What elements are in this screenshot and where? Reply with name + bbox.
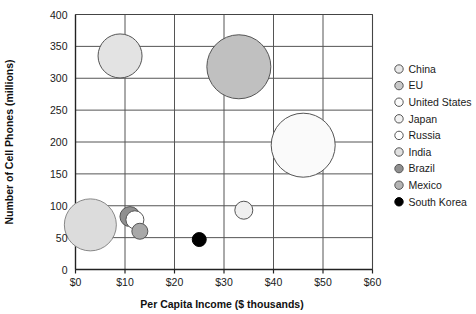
legend-label: United States: [409, 96, 472, 108]
y-tick-label: 200: [50, 136, 68, 148]
x-tick-label: $60: [364, 276, 382, 288]
y-tick-label: 150: [50, 168, 68, 180]
bubble-china: [98, 34, 142, 78]
legend-swatch-icon: [395, 198, 403, 206]
legend-swatch-icon: [395, 148, 403, 156]
legend-label: South Korea: [409, 196, 468, 208]
bubble-japan: [235, 201, 253, 219]
bubble-eu: [207, 35, 271, 99]
y-axis-title: Number of Cell Phones (millions): [3, 59, 15, 224]
bubble-south-korea: [192, 233, 206, 247]
legend-swatch-icon: [395, 115, 403, 123]
legend-swatch-icon: [395, 131, 403, 139]
legend-label: China: [409, 63, 437, 75]
x-tick-label: $20: [166, 276, 184, 288]
x-axis-title: Per Capita Income ($ thousands): [140, 298, 303, 310]
x-tick-label: $50: [314, 276, 332, 288]
legend-label: EU: [409, 79, 424, 91]
bubble-united-states: [271, 113, 335, 177]
legend-label: India: [409, 146, 432, 158]
bubble-india: [64, 199, 116, 251]
y-tick-label: 350: [50, 40, 68, 52]
bubble-chart: $0$10$20$30$40$50$60 0501001502002503003…: [0, 0, 476, 314]
bubble-mexico: [132, 223, 148, 239]
x-tick-label: $40: [265, 276, 283, 288]
legend-swatch-icon: [395, 98, 403, 106]
legend-label: Russia: [409, 129, 441, 141]
y-tick-label: 250: [50, 104, 68, 116]
legend-label: Japan: [409, 113, 438, 125]
legend-item-eu[interactable]: EU: [395, 79, 423, 91]
y-tick-label: 50: [56, 232, 68, 244]
bubble-marker: [192, 233, 206, 247]
bubble-marker: [271, 113, 335, 177]
y-tick-label: 300: [50, 72, 68, 84]
legend-swatch-icon: [395, 181, 403, 189]
legend-label: Brazil: [409, 162, 435, 174]
legend-swatch-icon: [395, 81, 403, 89]
y-tick-label: 0: [62, 264, 68, 276]
legend-label: Mexico: [409, 179, 442, 191]
bubble-marker: [132, 223, 148, 239]
x-tick-label: $30: [215, 276, 233, 288]
bubble-marker: [235, 201, 253, 219]
bubble-marker: [98, 34, 142, 78]
x-tick-label: $10: [116, 276, 134, 288]
legend-item-india[interactable]: India: [395, 146, 432, 158]
legend-swatch-icon: [395, 65, 403, 73]
bubble-marker: [207, 35, 271, 99]
chart-canvas: $0$10$20$30$40$50$60 0501001502002503003…: [0, 0, 476, 314]
y-tick-label: 100: [50, 200, 68, 212]
y-tick-label: 400: [50, 9, 68, 21]
legend-swatch-icon: [395, 164, 403, 172]
bubble-marker: [64, 199, 116, 251]
x-tick-label: $0: [70, 276, 82, 288]
